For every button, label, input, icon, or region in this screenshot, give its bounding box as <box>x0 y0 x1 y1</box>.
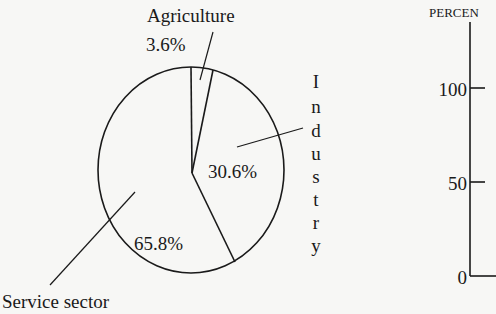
industry-letter: y <box>311 235 321 256</box>
industry-letter: I <box>313 71 319 92</box>
service-value: 65.8% <box>134 233 183 254</box>
service-label: Service sector <box>2 291 110 312</box>
agriculture-value: 3.6% <box>146 34 186 55</box>
industry-label: I n d u s t r y <box>311 71 321 256</box>
slice-divider-agriculture-industry <box>192 70 213 173</box>
agriculture-leader-line <box>200 32 213 80</box>
slice-divider-industry-service <box>192 173 235 262</box>
agriculture-label: Agriculture <box>147 5 235 26</box>
industry-letter: t <box>313 189 319 210</box>
tick-label-0: 0 <box>458 267 468 288</box>
industry-letter: u <box>311 143 321 164</box>
industry-leader-line <box>237 128 303 147</box>
tick-label-50: 50 <box>448 173 467 194</box>
axis-title: PERCEN <box>429 5 479 20</box>
slice-divider-top <box>191 67 192 173</box>
industry-letter: s <box>312 166 319 187</box>
industry-letter: d <box>311 120 321 141</box>
percent-axis: PERCEN 100 50 0 <box>429 5 496 288</box>
industry-letter: n <box>311 96 321 117</box>
industry-value: 30.6% <box>208 161 257 182</box>
chart-canvas: Agriculture 3.6% 30.6% 65.8% Service sec… <box>0 0 496 314</box>
industry-letter: r <box>313 212 320 233</box>
tick-label-100: 100 <box>439 79 468 100</box>
chart-figure: Agriculture 3.6% 30.6% 65.8% Service sec… <box>0 0 496 314</box>
